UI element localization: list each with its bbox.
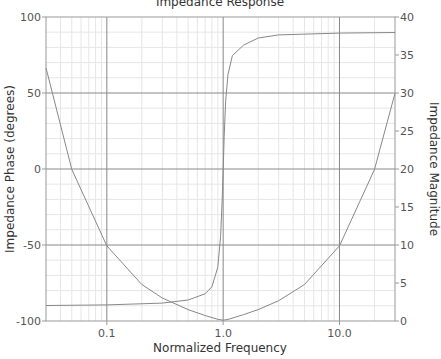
y-tick-label: 0 [34, 163, 41, 176]
y-tick-label: 100 [20, 11, 41, 24]
series-lines [46, 33, 395, 321]
y2-tick-label: 15 [400, 201, 414, 214]
x-axis-ticks: 0.11.010.0 [98, 321, 352, 340]
y2-axis-ticks: 0510152025303540 [395, 11, 414, 328]
magnitude-line [46, 68, 395, 320]
y-tick-label: -100 [16, 315, 41, 328]
y2-tick-label: 30 [400, 87, 414, 100]
x-tick-label: 1.0 [214, 327, 232, 340]
x-tick-label: 0.1 [98, 327, 116, 340]
x-axis-label: Normalized Frequency [153, 341, 287, 355]
y2-tick-label: 25 [400, 125, 414, 138]
y2-tick-label: 20 [400, 163, 414, 176]
y2-tick-label: 35 [400, 49, 414, 62]
x-tick-label: 10.0 [327, 327, 352, 340]
y2-tick-label: 40 [400, 11, 414, 24]
y2-axis-label: Impedance Magnitude [427, 102, 441, 236]
y-axis-label: Impedance Phase (degrees) [3, 85, 17, 253]
y-axis-ticks: -100-50050100 [16, 11, 46, 328]
chart-title: Impedance Response [156, 0, 284, 9]
impedance-chart: 0.11.010.0 -100-50050100 051015202530354… [0, 0, 441, 359]
y2-tick-label: 0 [400, 315, 407, 328]
y-tick-label: -50 [23, 239, 41, 252]
y-tick-label: 50 [27, 87, 41, 100]
y2-tick-label: 5 [400, 277, 407, 290]
y2-tick-label: 10 [400, 239, 414, 252]
